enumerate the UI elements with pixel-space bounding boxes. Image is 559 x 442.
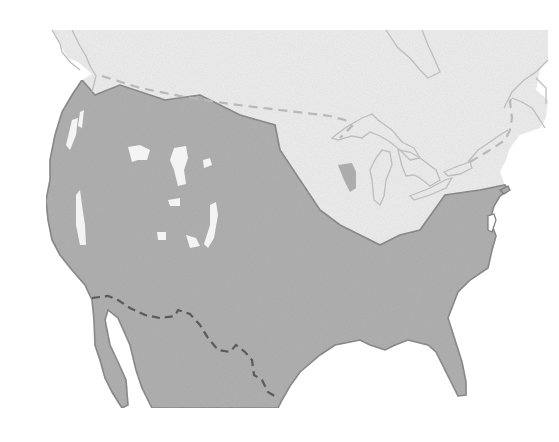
cape-cod: [488, 214, 496, 232]
range-gap-utah: [157, 232, 166, 240]
range-map: Grayscale range map of North America sho…: [0, 0, 559, 442]
map-canvas: [0, 0, 559, 442]
